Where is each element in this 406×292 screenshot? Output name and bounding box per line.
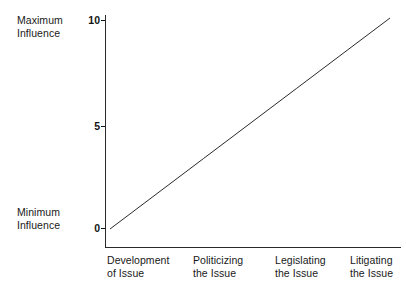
influence-trend-line: [110, 18, 390, 229]
y-axis-tick-label-10: 10: [78, 15, 100, 26]
x-axis-category-politicizing-the-issue: Politicizing the Issue: [193, 254, 273, 279]
plot-area: [0, 0, 406, 292]
x-axis-category-litigating-the-issue: Litigating the Issue: [350, 254, 406, 279]
y-axis-line: [105, 15, 106, 248]
y-axis-tick-label-5: 5: [78, 121, 100, 132]
y-axis-tick-label-0: 0: [78, 223, 100, 234]
x-axis-category-legislating-the-issue: Legislating the Issue: [275, 254, 349, 279]
influence-line-chart: Maximum Influence Minimum Influence 10 5…: [0, 0, 406, 292]
x-axis-line: [105, 247, 401, 248]
x-axis-category-development-of-issue: Development of Issue: [107, 254, 191, 279]
